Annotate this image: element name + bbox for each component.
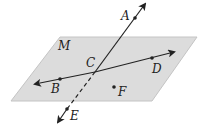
point-d <box>150 56 154 60</box>
point-b <box>58 77 62 81</box>
label-m: M <box>57 39 71 53</box>
point-f <box>112 85 116 89</box>
point-e <box>65 107 69 111</box>
line-e-arrow <box>58 109 67 122</box>
geometry-diagram: M A C D B F E <box>0 0 199 130</box>
label-d: D <box>151 62 162 76</box>
label-a: A <box>120 9 130 23</box>
label-f: F <box>117 85 127 99</box>
label-b: B <box>50 82 60 96</box>
label-e: E <box>69 109 79 123</box>
plane-m <box>11 37 197 101</box>
point-a <box>133 16 137 20</box>
label-c: C <box>86 56 95 70</box>
